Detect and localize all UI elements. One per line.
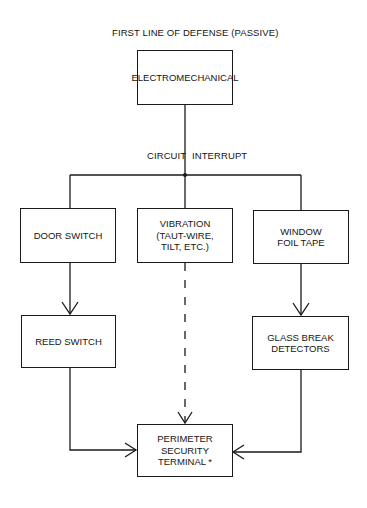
diagram-title: FIRST LINE OF DEFENSE (PASSIVE)	[112, 27, 278, 38]
node-glass-break-detectors: GLASS BREAK DETECTORS	[252, 316, 349, 370]
node-label-line: TERMINAL *	[157, 456, 212, 468]
junction-label-interrupt: INTERRUPT	[192, 150, 247, 161]
node-electromechanical: ELECTROMECHANICAL	[137, 50, 233, 105]
node-perimeter-security-terminal: PERIMETER SECURITY TERMINAL *	[137, 424, 233, 477]
diagram-canvas: FIRST LINE OF DEFENSE (PASSIVE) ELECTROM…	[0, 0, 367, 508]
node-label-line: VIBRATION	[156, 218, 213, 230]
node-vibration: VIBRATION (TAUT-WIRE, TILT, ETC.)	[137, 208, 233, 263]
node-label-line: (TAUT-WIRE,	[156, 230, 213, 242]
node-label: ELECTROMECHANICAL	[131, 72, 238, 84]
node-door-switch: DOOR SWITCH	[20, 208, 116, 263]
node-label-line: PERIMETER	[157, 433, 212, 445]
node-window-foil-tape: WINDOW FOIL TAPE	[253, 210, 349, 264]
node-label-line: WINDOW	[277, 226, 324, 238]
node-label: DOOR SWITCH	[34, 230, 103, 242]
node-label-line: TILT, ETC.)	[156, 241, 213, 253]
node-label-line: DETECTORS	[267, 343, 334, 355]
junction-dot	[183, 173, 187, 177]
node-label-line: FOIL TAPE	[277, 237, 324, 249]
node-label-line: SECURITY	[157, 445, 212, 457]
node-label: REED SWITCH	[35, 336, 102, 348]
node-reed-switch: REED SWITCH	[21, 315, 116, 368]
node-label-line: GLASS BREAK	[267, 332, 334, 344]
junction-label-circuit: CIRCUIT	[147, 150, 186, 161]
